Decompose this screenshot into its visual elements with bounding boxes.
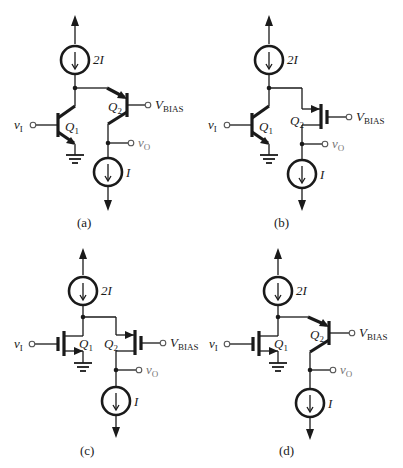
svg-text:Q1: Q1	[259, 119, 273, 136]
sink-arrow-icon	[298, 200, 306, 211]
svg-text:vI: vI	[209, 336, 218, 353]
bias-terminal[interactable]	[349, 330, 355, 336]
output-terminal[interactable]	[330, 367, 336, 373]
ground-icon	[269, 363, 287, 371]
input-terminal[interactable]	[224, 341, 230, 347]
svg-text:I: I	[319, 167, 325, 182]
label-I: I	[125, 165, 131, 180]
supply-arrow-icon	[79, 248, 87, 259]
ground-icon	[260, 155, 278, 163]
svg-text:Q1: Q1	[65, 119, 79, 136]
svg-text:2I: 2I	[287, 52, 299, 67]
input-terminal[interactable]	[30, 122, 36, 128]
svg-text:vI: vI	[14, 336, 23, 353]
sink-arrow-icon	[306, 429, 314, 440]
svg-text:Q2: Q2	[310, 327, 324, 344]
circuit-figure: 2I vI Q1 VBIAS Q2 vO	[0, 0, 403, 468]
sink-arrow-icon	[112, 427, 120, 438]
bias-terminal[interactable]	[145, 102, 151, 108]
svg-text:2I: 2I	[101, 283, 113, 298]
svg-text:Q1: Q1	[274, 336, 288, 353]
svg-text:2I: 2I	[296, 283, 308, 298]
bias-terminal[interactable]	[346, 114, 352, 120]
supply-arrow-icon	[274, 248, 282, 259]
input-terminal[interactable]	[29, 341, 35, 347]
bias-terminal[interactable]	[160, 340, 166, 346]
caption-c: (c)	[80, 443, 94, 458]
svg-text:VBIAS: VBIAS	[155, 97, 183, 114]
ground-icon	[74, 363, 92, 371]
panel-a: 2I vI Q1 VBIAS Q2 vO	[14, 15, 183, 230]
svg-text:Q2: Q2	[104, 336, 118, 353]
svg-text:VBIAS: VBIAS	[170, 335, 198, 352]
svg-text:vO: vO	[332, 136, 345, 153]
supply-arrow-icon	[265, 15, 273, 26]
caption-d: (d)	[279, 443, 294, 458]
output-terminal[interactable]	[136, 367, 142, 373]
caption-b: (b)	[274, 215, 289, 230]
q2-source-arrow-icon	[311, 105, 320, 113]
svg-text:vI: vI	[14, 117, 23, 134]
panel-c: 2I vI Q1 VBIAS Q2	[14, 248, 198, 458]
svg-text:vO: vO	[340, 362, 353, 379]
ground-icon	[66, 155, 84, 163]
svg-text:VBIAS: VBIAS	[356, 109, 384, 126]
svg-text:Q1: Q1	[79, 336, 93, 353]
svg-text:I: I	[327, 396, 333, 411]
supply-arrow-icon	[71, 15, 79, 26]
input-terminal[interactable]	[224, 122, 230, 128]
svg-text:vO: vO	[138, 135, 151, 152]
output-terminal[interactable]	[322, 141, 328, 147]
svg-text:Q2: Q2	[108, 99, 122, 116]
panel-b: 2I vI Q1 VBIAS Q2 v	[208, 15, 384, 230]
svg-text:VBIAS: VBIAS	[359, 325, 387, 342]
caption-a: (a)	[77, 215, 91, 230]
panel-d: 2I vI Q1 VBIAS Q2 vO	[209, 248, 387, 458]
svg-text:I: I	[133, 394, 139, 409]
svg-text:vO: vO	[146, 362, 159, 379]
label-2I: 2I	[93, 52, 105, 67]
output-terminal[interactable]	[128, 140, 134, 146]
svg-text:vI: vI	[208, 117, 217, 134]
q2-source-arrow-icon	[125, 331, 134, 339]
sink-arrow-icon	[104, 200, 112, 211]
